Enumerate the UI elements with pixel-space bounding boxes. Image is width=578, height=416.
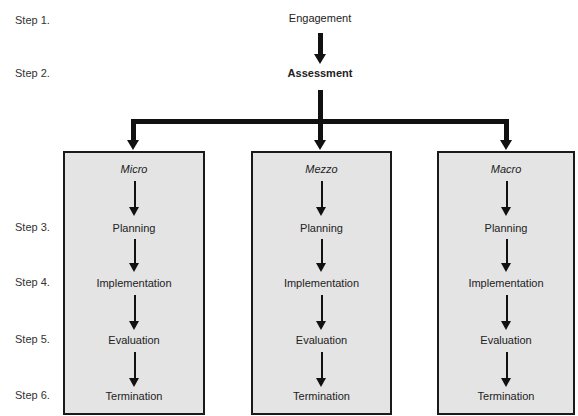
column-title: Macro	[439, 163, 573, 175]
arrow-down-icon	[501, 207, 511, 216]
branch-micro	[131, 119, 136, 141]
arrow-down-icon	[127, 140, 139, 150]
arrow-down-icon	[129, 321, 139, 330]
step-4-label: Step 4.	[15, 276, 50, 288]
step-6-label: Step 6.	[15, 389, 50, 401]
arrow-down-icon	[316, 321, 326, 330]
arrow-down-icon	[500, 140, 512, 150]
branch-mezzo	[318, 119, 323, 141]
step-item: Implementation	[65, 277, 203, 289]
step-item: Evaluation	[65, 334, 203, 346]
engagement-label: Engagement	[289, 12, 351, 24]
step-item: Planning	[65, 222, 203, 234]
arrow-down-icon	[501, 378, 511, 387]
arrow-down-icon	[501, 263, 511, 272]
column-title: Micro	[65, 163, 203, 175]
arrow-down-icon	[129, 207, 139, 216]
arrow-down-icon	[314, 54, 326, 64]
step-item: Implementation	[439, 277, 573, 289]
arrow-down-icon	[314, 140, 326, 150]
step-5-label: Step 5.	[15, 333, 50, 345]
mezzo-box: Mezzo Planning Implementation Evaluation…	[251, 151, 392, 415]
arrow-down-icon	[129, 378, 139, 387]
micro-box: Micro Planning Implementation Evaluation…	[63, 151, 205, 415]
step-item: Termination	[253, 390, 390, 402]
step-item: Implementation	[253, 277, 390, 289]
arrow-down-icon	[316, 263, 326, 272]
arrow-shaft	[318, 33, 323, 55]
step-item: Termination	[65, 390, 203, 402]
arrow-down-icon	[501, 321, 511, 330]
step-3-label: Step 3.	[15, 221, 50, 233]
step-1-label: Step 1.	[15, 14, 50, 26]
step-item: Evaluation	[439, 334, 573, 346]
step-item: Planning	[439, 222, 573, 234]
step-item: Termination	[439, 390, 573, 402]
arrow-down-icon	[316, 207, 326, 216]
arrow-down-icon	[129, 263, 139, 272]
branch-macro	[504, 119, 509, 141]
macro-box: Macro Planning Implementation Evaluation…	[437, 151, 575, 415]
step-2-label: Step 2.	[15, 67, 50, 79]
step-item: Planning	[253, 222, 390, 234]
arrow-down-icon	[316, 378, 326, 387]
step-item: Evaluation	[253, 334, 390, 346]
assessment-label: Assessment	[288, 67, 353, 79]
column-title: Mezzo	[253, 163, 390, 175]
